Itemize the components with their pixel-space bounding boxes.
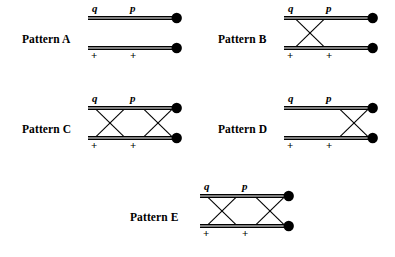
pattern-diagram-e: qp++: [198, 180, 302, 245]
pattern-label-e: Pattern E: [130, 212, 178, 224]
symbol-top-right-d: p: [325, 92, 332, 104]
symbol-top-right-e: p: [241, 180, 248, 192]
terminal-dot-top: [171, 13, 181, 23]
symbol-bottom-left-b: +: [287, 49, 293, 61]
crossing-x-e-1: [208, 197, 236, 224]
crossings-group-c: [96, 109, 172, 136]
terminal-dot-bottom: [171, 43, 181, 53]
crossing-x-d-1: [340, 109, 368, 136]
terminal-dot-top: [171, 103, 181, 113]
symbol-top-left-c: q: [92, 92, 98, 104]
symbol-top-left-d: q: [288, 92, 294, 104]
symbol-bottom-right-e: +: [242, 227, 248, 239]
terminal-dot-top: [367, 103, 377, 113]
symbol-top-right-b: p: [325, 2, 332, 14]
pattern-label-d: Pattern D: [218, 124, 267, 136]
figure-canvas: Pattern Aqp++Pattern Bqp++Pattern Cqp++P…: [0, 0, 395, 257]
symbol-bottom-right-c: +: [130, 139, 136, 151]
symbol-bottom-left-c: +: [91, 139, 97, 151]
rail-top-e: [200, 191, 294, 201]
symbol-bottom-left-a: +: [91, 49, 97, 61]
symbol-bottom-right-b: +: [326, 49, 332, 61]
symbol-top-right-c: p: [129, 92, 136, 104]
crossing-x-c-1: [96, 109, 124, 136]
terminal-dot-bottom: [283, 221, 293, 231]
pattern-diagram-c: qp++: [86, 92, 190, 157]
rail-top-a: [88, 13, 182, 23]
pattern-label-c: Pattern C: [22, 124, 71, 136]
crossings-group-b: [296, 19, 324, 46]
symbol-bottom-right-d: +: [326, 139, 332, 151]
symbol-bottom-right-a: +: [130, 49, 136, 61]
pattern-diagram-b: qp++: [282, 2, 386, 67]
terminal-dot-bottom: [367, 133, 377, 143]
crossing-x-b-1: [296, 19, 324, 46]
pattern-label-a: Pattern A: [22, 34, 70, 46]
pattern-diagram-d: qp++: [282, 92, 386, 157]
pattern-diagram-a: qp++: [86, 2, 190, 67]
terminal-dot-top: [367, 13, 377, 23]
rail-top-c: [88, 103, 182, 113]
symbol-top-left-a: q: [92, 2, 98, 14]
symbol-top-left-b: q: [288, 2, 294, 14]
symbol-bottom-left-d: +: [287, 139, 293, 151]
terminal-dot-bottom: [367, 43, 377, 53]
symbol-top-right-a: p: [129, 2, 136, 14]
crossings-group-d: [340, 109, 368, 136]
crossing-x-c-2: [144, 109, 172, 136]
symbol-top-left-e: q: [204, 180, 210, 192]
pattern-label-b: Pattern B: [218, 34, 266, 46]
crossings-group-e: [208, 197, 284, 224]
crossing-x-e-2: [256, 197, 284, 224]
symbol-bottom-left-e: +: [203, 227, 209, 239]
rail-top-d: [284, 103, 378, 113]
terminal-dot-bottom: [171, 133, 181, 143]
terminal-dot-top: [283, 191, 293, 201]
